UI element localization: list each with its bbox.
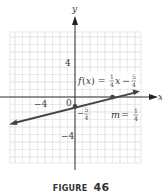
slope-num: 1 (134, 107, 138, 114)
x-tick-neg4: −4 (34, 99, 48, 109)
intercept-num: 5 (85, 106, 89, 113)
slope-eq: = (121, 109, 129, 120)
origin-label: 0 (66, 98, 72, 108)
y-tick-4: 4 (65, 58, 71, 68)
function-label: f (x) = 1 4 x − 5 4 (77, 72, 139, 88)
func-frac2-num: 5 (132, 73, 136, 80)
caption-number: 46 (93, 181, 109, 191)
slope-m: m (111, 109, 120, 120)
graph: y x −4 4 −4 0 f (x) = 1 4 x − 5 4 − 5 4 … (0, 0, 162, 191)
intercept-minus: − (77, 109, 84, 118)
x-axis-label: x (158, 92, 162, 102)
y-intercept-point (73, 104, 78, 109)
axes (0, 22, 152, 170)
caption-word: FIGURE (53, 184, 88, 191)
func-arg: (x) = (82, 75, 106, 86)
func-frac1-num: 1 (110, 73, 114, 80)
slope-den: 4 (134, 115, 138, 122)
func-frac1-den: 4 (110, 81, 114, 88)
x-axis-arrow-icon (149, 94, 158, 100)
func-minus: − (122, 75, 130, 86)
line-arrow-right-icon (133, 90, 141, 96)
y-axis-arrow-icon (72, 16, 78, 25)
intercept-den: 4 (85, 114, 89, 121)
x-intercept-point (110, 95, 115, 100)
y-axis-label: y (71, 4, 78, 14)
func-var: x (115, 75, 121, 86)
func-frac2-den: 4 (132, 81, 136, 88)
y-tick-neg4: −4 (61, 131, 75, 141)
figure-caption: FIGURE 46 (0, 176, 162, 191)
slope-label: m = 1 4 (111, 107, 138, 122)
